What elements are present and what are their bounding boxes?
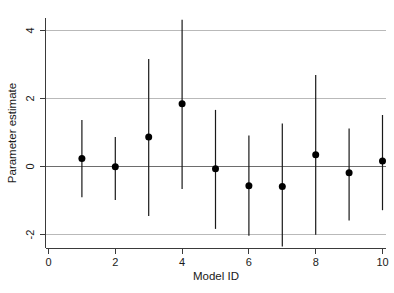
estimate-point-model-1 [78,155,85,162]
x-tick-label-4: 4 [179,256,185,268]
estimate-point-model-2 [112,163,119,170]
estimate-point-model-6 [245,182,252,189]
y-axis-title: Parameter estimate [6,83,18,183]
y-tick-label--2: -2 [24,230,36,240]
estimate-point-model-10 [379,157,386,164]
x-tick-label-10: 10 [376,256,388,268]
estimate-point-model-7 [279,183,286,190]
estimate-point-model-4 [179,100,186,107]
estimate-point-model-3 [145,134,152,141]
estimate-point-model-8 [312,151,319,158]
x-tick-label-6: 6 [246,256,252,268]
x-tick-label-8: 8 [313,256,319,268]
estimate-point-model-5 [212,165,219,172]
estimate-point-model-9 [346,169,353,176]
parameter-estimate-plot: -2024 0246810 Model ID Parameter estimat… [0,0,394,293]
y-tick-label-2: 2 [24,95,36,101]
y-tick-label-4: 4 [24,27,36,33]
x-tick-label-0: 0 [45,256,51,268]
chart-background [0,0,394,293]
x-axis-title: Model ID [193,270,239,282]
chart-figure: -2024 0246810 Model ID Parameter estimat… [0,0,394,293]
x-tick-label-2: 2 [112,256,118,268]
y-tick-label-0: 0 [24,163,36,169]
